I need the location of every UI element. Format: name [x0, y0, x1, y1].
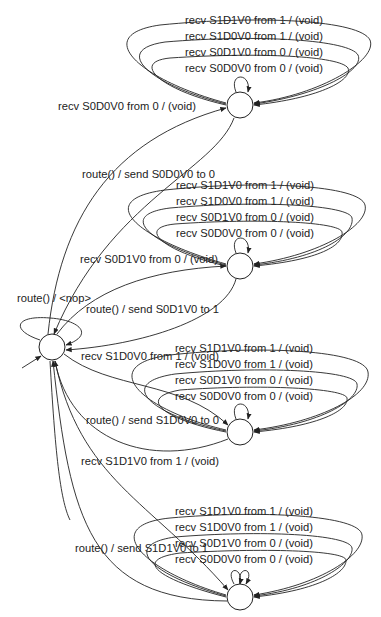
transition-label: recv S0D1V0 from 0 / (void) [80, 253, 218, 265]
state-node-4[interactable] [227, 584, 253, 610]
loop-label: recv S0D1V0 from 0 / (void) [175, 374, 313, 386]
loop-label: recv S1D1V0 from 1 / (void) [175, 505, 313, 517]
loop-label: recv S1D0V0 from 1 / (void) [185, 30, 323, 42]
state-node-3[interactable] [227, 419, 253, 445]
transition-label: route() / send S0D0V0 to 0 [82, 168, 215, 180]
loop-label: recv S0D0V0 from 0 / (void) [185, 62, 323, 74]
loop-label: recv S0D0V0 from 0 / (void) [175, 390, 313, 402]
transition-label: recv S0D0V0 from 0 / (void) [58, 100, 196, 112]
transition-label: recv S1D0V0 from 1 / (void) [81, 350, 219, 362]
state-machine-diagram: recv S1D1V0 from 1 / (void) recv S1D0V0 … [0, 0, 381, 617]
state-node-2[interactable] [227, 253, 253, 279]
loop-label: recv S1D1V0 from 1 / (void) [176, 179, 314, 191]
transition-label: route() / send S1D1V0 to 1 [75, 542, 208, 554]
loop-label: recv S0D0V0 from 0 / (void) [176, 227, 314, 239]
loop-label: recv S1D1V0 from 1 / (void) [185, 14, 323, 26]
transition-label: recv S1D1V0 from 1 / (void) [81, 455, 219, 467]
loop-label: recv S0D1V0 from 0 / (void) [176, 211, 314, 223]
state-node-1[interactable] [227, 92, 253, 118]
loop-label: recv S0D0V0 from 0 / (void) [175, 553, 313, 565]
transition-label: route() / send S1D0V0 to 0 [86, 414, 219, 426]
hub-state-node[interactable] [39, 334, 65, 360]
loop-label: recv S1D0V0 from 1 / (void) [176, 195, 314, 207]
loop-label: recv S0D1V0 from 0 / (void) [185, 46, 323, 58]
loop-label: recv S1D0V0 from 1 / (void) [175, 521, 313, 533]
transition-label: route() / send S0D1V0 to 1 [86, 303, 219, 315]
